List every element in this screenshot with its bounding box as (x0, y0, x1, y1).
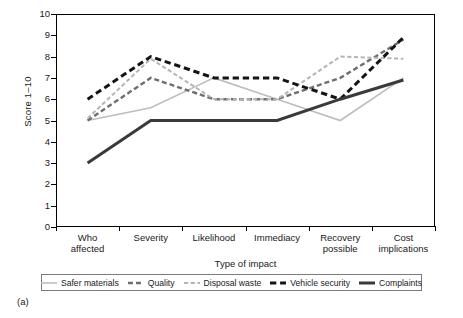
legend-item-vehicle-security[interactable]: Vehicle security (270, 278, 350, 288)
y-tick-label-wrap: 0 (0, 222, 50, 231)
y-tick-mark (51, 206, 56, 207)
x-tick-label-line: implications (372, 244, 435, 255)
y-tick-label-wrap: 4 (0, 137, 50, 146)
x-tick-mark (372, 226, 373, 231)
x-tick-label-line: Severity (119, 233, 182, 244)
figure-caption: (a) (17, 296, 29, 307)
y-tick-label-wrap: 5 (0, 116, 50, 125)
y-tick-label-wrap: 2 (0, 179, 50, 188)
x-tick-mark (246, 226, 247, 231)
legend-marker-dashed (184, 280, 200, 286)
legend-item-safer-materials[interactable]: Safer materials (41, 278, 119, 288)
y-tick-label: 5 (4, 116, 50, 125)
y-tick-mark (51, 99, 56, 100)
y-tick-mark (51, 14, 56, 15)
plot-right-border (434, 14, 435, 227)
legend-label: Quality (148, 278, 175, 288)
series-line-safer-materials (88, 78, 404, 121)
y-tick-mark (51, 121, 56, 122)
series-line-vehicle-security (88, 37, 404, 99)
chart-legend: Safer materialsQualityDisposal wasteVehi… (41, 274, 422, 291)
x-tick-label-line: Immediacy (246, 233, 309, 244)
y-axis-line (56, 14, 57, 227)
y-tick-mark (51, 57, 56, 58)
x-tick-label: Immediacy (246, 233, 309, 244)
y-tick-label-wrap: 8 (0, 52, 50, 61)
series-line-quality (88, 40, 404, 121)
y-tick-label: 1 (4, 201, 50, 210)
x-tick-mark (119, 226, 120, 231)
x-tick-mark (56, 226, 57, 231)
x-tick-label-line: affected (56, 244, 119, 255)
x-tick-label-line: possible (309, 244, 372, 255)
y-tick-label: 8 (4, 52, 50, 61)
x-tick-label-line: Cost (372, 233, 435, 244)
x-tick-label: Whoaffected (56, 233, 119, 254)
series-lines-layer (0, 0, 463, 318)
y-tick-label-wrap: 1 (0, 201, 50, 210)
legend-marker-dashed (270, 280, 286, 286)
y-tick-label: 9 (4, 30, 50, 39)
x-tick-label: Likelihood (182, 233, 245, 244)
y-tick-label-wrap: 3 (0, 158, 50, 167)
x-tick-label-line: Who (56, 233, 119, 244)
y-tick-mark (51, 35, 56, 36)
x-tick-mark (435, 226, 436, 231)
x-tick-label: Severity (119, 233, 182, 244)
legend-label: Complaints (379, 278, 422, 288)
legend-label: Safer materials (61, 278, 119, 288)
y-tick-label: 7 (4, 73, 50, 82)
x-tick-label: Recoverypossible (309, 233, 372, 254)
x-tick-mark (182, 226, 183, 231)
legend-item-disposal-waste[interactable]: Disposal waste (184, 278, 262, 288)
legend-item-quality[interactable]: Quality (128, 278, 175, 288)
legend-label: Disposal waste (204, 278, 262, 288)
y-tick-label: 2 (4, 179, 50, 188)
y-tick-label-wrap: 7 (0, 73, 50, 82)
x-axis-title: Type of impact (56, 258, 435, 269)
legend-marker-solid (359, 280, 375, 286)
x-tick-label: Costimplications (372, 233, 435, 254)
legend-marker-solid (41, 280, 57, 286)
series-line-complaints (88, 80, 404, 163)
x-tick-label-line: Likelihood (182, 233, 245, 244)
y-tick-mark (51, 163, 56, 164)
y-tick-label-wrap: 10 (0, 9, 50, 18)
y-tick-label-wrap: 6 (0, 94, 50, 103)
series-line-disposal-waste (88, 57, 404, 119)
y-tick-mark (51, 142, 56, 143)
y-tick-label: 10 (4, 9, 50, 18)
y-tick-mark (51, 184, 56, 185)
legend-marker-dashed (128, 280, 144, 286)
y-tick-label: 4 (4, 137, 50, 146)
legend-label: Vehicle security (290, 278, 350, 288)
y-tick-mark (51, 78, 56, 79)
y-tick-label: 0 (4, 222, 50, 231)
x-tick-mark (309, 226, 310, 231)
figure-container: Score 1–10 012345678910 WhoaffectedSever… (0, 0, 463, 318)
x-tick-label-line: Recovery (309, 233, 372, 244)
y-tick-label: 6 (4, 94, 50, 103)
plot-top-border (56, 14, 435, 15)
y-tick-label: 3 (4, 158, 50, 167)
legend-item-complaints[interactable]: Complaints (359, 278, 422, 288)
y-tick-label-wrap: 9 (0, 30, 50, 39)
